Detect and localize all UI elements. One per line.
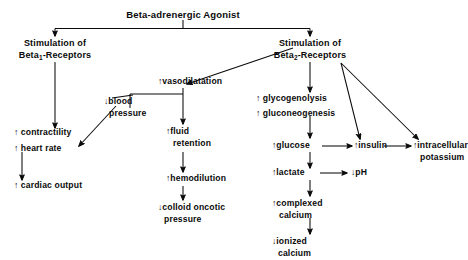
up-arrow-icon: ↑ [14,143,18,153]
node-stimulation-beta1: Stimulation of Beta1-Receptors [8,38,102,63]
node-contractility: ↑ contractility [14,127,72,139]
up-arrow-icon: ↑ [14,127,18,137]
node-vasodilatation: ↑vasodilatation [158,76,222,88]
node-fluid-retention: ↑fluid retention [166,126,211,149]
node-lactate: ↑lactate [272,167,305,179]
node-insulin: ↑insulin [354,140,387,152]
node-intracellular-potassium: ↑intracellular potassium [413,140,468,163]
node-colloid-oncotic-pressure: ↓colloid oncotic pressure [158,202,225,225]
node-cardiac-output: ↑ cardiac output [14,180,82,192]
node-complexed-calcium: ↑complexed calcium [272,198,323,221]
node-glucose: ↑glucose [272,140,310,152]
up-arrow-icon: ↑ [256,93,260,103]
node-gluconeogenesis: ↑ gluconeogenesis [256,108,335,120]
edge-beta2-to-insulin [341,63,360,139]
up-arrow-icon: ↑ [14,180,18,190]
node-heart-rate: ↑ heart rate [14,143,62,155]
node-ionized-calcium: ↓ionized calcium [272,236,311,259]
node-glycogenolysis: ↑ glycogenolysis [256,93,327,105]
node-hemodilution: ↑hemodilution [166,173,226,185]
node-blood-pressure: ↓blood pressure [104,96,147,119]
edge-beta2-to-potassium [341,63,418,139]
up-arrow-icon: ↑ [256,108,260,118]
node-ph: ↓pH [351,167,367,179]
node-stimulation-beta2: Stimulation of Beta2-Receptors [262,38,358,63]
diagram-title: Beta-adrenergic Agonist [126,9,239,21]
